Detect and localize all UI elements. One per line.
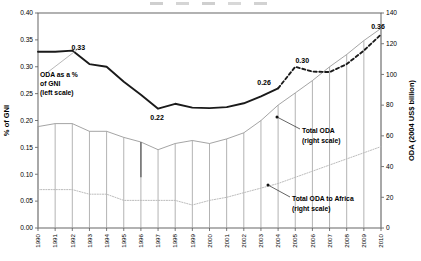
- y-axis-tick-label: 0.30: [20, 63, 33, 70]
- x-axis-tick-label: 1999: [189, 233, 196, 247]
- anno-total-oda-leader: [277, 117, 300, 129]
- y2-axis-tick-label: 100: [386, 71, 397, 78]
- x-axis-tick-label: 2003: [257, 233, 264, 247]
- y-axis-title: % of GNI: [2, 105, 11, 136]
- y-axis-tick-label: 0.40: [20, 9, 33, 16]
- anno-total-oda-marker: [276, 116, 279, 119]
- x-axis-tick-label: 2007: [326, 233, 333, 247]
- y2-axis-tick-label: 60: [386, 132, 394, 139]
- anno-gni-line2: of GNI: [40, 80, 60, 87]
- x-axis-tick-label: 1990: [34, 233, 41, 247]
- anno-africa-line1: Total ODA to Africa: [292, 195, 354, 202]
- y-axis-tick-label: 0.35: [20, 36, 33, 43]
- anno-africa-leader: [268, 185, 290, 197]
- y-axis-tick-label: 0.05: [20, 197, 33, 204]
- title-fragment: [176, 2, 189, 5]
- anno-gni-line3: (left scale): [40, 89, 74, 97]
- x-axis-tick-label: 2002: [240, 233, 247, 247]
- x-axis-tick-label: 1995: [120, 233, 127, 247]
- y-axis-tick-label: 0.25: [20, 90, 33, 97]
- data-label-0-30: 0.30: [295, 57, 309, 64]
- x-axis-tick-label: 1992: [69, 233, 76, 247]
- anno-africa-line2: (right scale): [292, 205, 331, 213]
- y2-axis-title: ODA (2004 US$ billion): [407, 80, 416, 161]
- data-label-0-22: 0.22: [150, 114, 164, 121]
- data-label-0-33: 0.33: [71, 44, 85, 51]
- y2-axis-tick-label: 20: [386, 194, 394, 201]
- y-axis-tick-label: 0.20: [20, 117, 33, 124]
- y-axis-tick-label: 0.10: [20, 171, 33, 178]
- x-axis-tick-label: 2010: [377, 233, 384, 247]
- chart-container: 0.000.050.100.150.200.250.300.350.40% of…: [0, 0, 421, 261]
- y2-axis-tick-label: 0: [386, 224, 390, 231]
- anno-africa-marker: [267, 184, 270, 187]
- y-axis-tick-label: 0.00: [20, 224, 33, 231]
- anno-total-oda-line1: Total ODA: [302, 127, 335, 134]
- title-fragment: [202, 2, 215, 5]
- x-axis-tick-label: 2008: [343, 233, 350, 247]
- anno-gni-line1: ODA as a %: [40, 71, 78, 78]
- x-axis-tick-label: 2001: [223, 233, 230, 247]
- x-axis-tick-label: 2005: [291, 233, 298, 247]
- x-axis-tick-label: 1993: [86, 233, 93, 247]
- x-axis-tick-label: 2004: [274, 233, 281, 247]
- y2-axis-tick-label: 140: [386, 9, 397, 16]
- y2-axis-tick-label: 120: [386, 40, 397, 47]
- oda-trend-chart: 0.000.050.100.150.200.250.300.350.40% of…: [0, 0, 421, 261]
- y-axis-tick-label: 0.15: [20, 144, 33, 151]
- title-fragment: [254, 2, 267, 5]
- title-fragment: [150, 2, 163, 5]
- x-axis-tick-label: 1998: [171, 233, 178, 247]
- x-axis-tick-label: 1997: [154, 233, 161, 247]
- anno-total-oda-line2: (right scale): [302, 137, 341, 145]
- x-axis-tick-label: 1996: [137, 233, 144, 247]
- x-axis-tick-label: 2000: [206, 233, 213, 247]
- data-label-0-36: 0.36: [371, 23, 385, 30]
- data-label-0-26: 0.26: [257, 79, 271, 86]
- x-axis-tick-label: 1991: [51, 233, 58, 247]
- x-axis-tick-label: 2009: [360, 233, 367, 247]
- title-fragment: [228, 2, 241, 5]
- x-axis-tick-label: 2006: [309, 233, 316, 247]
- x-axis-tick-label: 1994: [103, 233, 110, 247]
- y2-axis-tick-label: 40: [386, 163, 394, 170]
- y2-axis-tick-label: 80: [386, 101, 394, 108]
- series-oda-gni: [38, 51, 278, 109]
